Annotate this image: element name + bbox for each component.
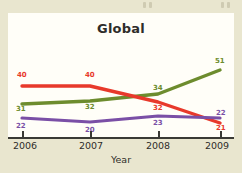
data-label-purple-2009: 22 (216, 110, 226, 117)
x-axis-tick-2009 (220, 131, 222, 137)
x-axis-label-2006: 2006 (13, 140, 37, 151)
scan-artifact-mark (227, 2, 230, 8)
scan-artifact-mark (221, 2, 224, 8)
x-axis-tick-2006 (22, 131, 24, 137)
data-label-purple-2008: 23 (153, 120, 163, 127)
x-axis-title: Year (8, 154, 234, 165)
scan-artifact-mark (143, 2, 146, 8)
chart-figure: Global 40 40 32 21 31 32 34 51 22 20 23 … (0, 0, 242, 173)
x-axis-tick-2008 (158, 131, 160, 137)
x-axis: 2006 2007 2008 2009 Year (8, 137, 234, 173)
data-label-red-2007: 40 (85, 72, 95, 79)
data-label-green-2007: 32 (85, 104, 95, 111)
data-label-red-2006: 40 (17, 72, 27, 79)
data-label-red-2008: 32 (153, 105, 163, 112)
scan-artifact-mark (149, 2, 152, 8)
plot-area: Global 40 40 32 21 31 32 34 51 22 20 23 … (8, 13, 234, 137)
x-axis-tick-2007 (90, 131, 92, 137)
x-axis-label-2008: 2008 (146, 140, 170, 151)
data-label-green-2009: 51 (215, 58, 225, 65)
data-label-green-2006: 31 (16, 106, 26, 113)
x-axis-label-2007: 2007 (79, 140, 103, 151)
line-purple-series (22, 116, 220, 122)
data-label-purple-2006: 22 (16, 123, 26, 130)
series-lines-svg (8, 13, 234, 137)
x-axis-label-2009: 2009 (205, 140, 229, 151)
data-label-green-2008: 34 (153, 85, 163, 92)
x-axis-line (8, 137, 234, 139)
